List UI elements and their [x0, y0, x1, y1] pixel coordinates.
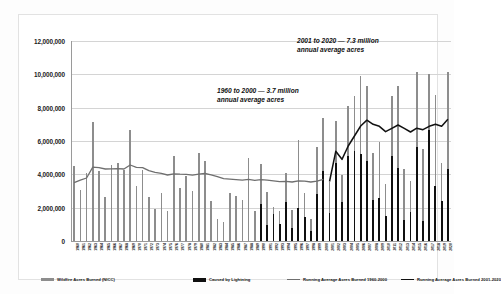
- x-axis-tick-label: 1972: [150, 243, 154, 251]
- x-axis-tick-label: 2012: [399, 243, 403, 251]
- x-axis-tick-label: 2005: [356, 243, 360, 251]
- x-axis-tick-label: 1980: [200, 243, 204, 251]
- x-axis-tick-label: 1971: [144, 243, 148, 251]
- legend-item-label: Wildfire Acres Burned (NICC): [57, 277, 115, 282]
- x-axis-tick-label: 1970: [138, 243, 142, 251]
- x-axis-tick-label: 1969: [132, 243, 136, 251]
- x-axis-tick-label: 2018: [437, 243, 441, 251]
- annotation-1960-2000: 1960 to 2000 — 3.7 million annual averag…: [217, 87, 299, 105]
- x-axis-tick-label: 2016: [424, 243, 428, 251]
- x-axis-tick-label: 1988: [250, 243, 254, 251]
- x-axis-tick-label: 2014: [412, 243, 416, 251]
- x-axis-tick-label: 1976: [175, 243, 179, 251]
- x-axis-tick-label: 2006: [362, 243, 366, 251]
- legend-item-label: Running Average Acres Burned 1960-2000: [303, 277, 387, 282]
- annotation-1960-2000-line2: annual average acres: [217, 96, 299, 105]
- legend-item[interactable]: Wildfire Acres Burned (NICC): [41, 277, 115, 282]
- x-axis-tick-label: 1964: [100, 243, 104, 251]
- y-axis-tick-label: 8,000,000: [37, 104, 65, 111]
- x-axis-tick-label: 1984: [225, 243, 229, 251]
- x-axis-tick-label: 1994: [287, 243, 291, 251]
- legend-swatch-icon: [401, 279, 414, 281]
- line-running-average-2001-2020: [330, 119, 448, 181]
- y-axis-tick-label: 10,000,000: [34, 71, 65, 78]
- y-axis-tick-label: 0: [62, 238, 65, 245]
- x-axis-tick-label: 1992: [275, 243, 279, 251]
- legend-item[interactable]: Running Average Acres Burned 2001-2020: [401, 277, 501, 282]
- x-axis-tick-label: 2020: [449, 243, 453, 251]
- x-axis-tick-label: 2010: [387, 243, 391, 251]
- x-axis-tick-label: 2015: [418, 243, 422, 251]
- x-axis-tick-label: 1999: [318, 243, 322, 251]
- x-axis-tick-label: 2009: [381, 243, 385, 251]
- x-axis-tick-label: 2004: [350, 243, 354, 251]
- x-axis-tick-label: 1990: [262, 243, 266, 251]
- x-axis-tick-label: 1978: [188, 243, 192, 251]
- y-axis-labels: 02,000,0004,000,0006,000,0008,000,00010,…: [19, 41, 67, 241]
- legend-swatch-icon: [287, 279, 300, 281]
- x-axis-tick-label: 1962: [88, 243, 92, 251]
- legend-item-label: Running Average Acres Burned 2001-2020: [417, 277, 501, 282]
- x-axis-tick-label: 1982: [213, 243, 217, 251]
- x-axis-tick-label: 1987: [244, 243, 248, 251]
- x-axis-tick-label: 2000: [325, 243, 329, 251]
- legend-item-label: Caused by Lightning: [209, 277, 250, 282]
- x-axis-tick-label: 1974: [163, 243, 167, 251]
- x-axis-tick-label: 2017: [431, 243, 435, 251]
- x-axis-tick-label: 2007: [368, 243, 372, 251]
- x-axis-tick-label: 1968: [125, 243, 129, 251]
- x-axis-tick-label: 1966: [113, 243, 117, 251]
- x-axis-tick-label: 2011: [393, 243, 397, 251]
- x-axis-tick-label: 1961: [82, 243, 86, 251]
- x-axis-tick-label: 1977: [181, 243, 185, 251]
- x-axis-tick-label: 1996: [300, 243, 304, 251]
- x-axis-tick-label: 2003: [343, 243, 347, 251]
- annotation-2001-2020-line1: 2001 to 2020 — 7.3 million: [297, 37, 379, 46]
- line-running-average-1960-2000: [74, 165, 323, 183]
- x-axis-tick-label: 2019: [443, 243, 447, 251]
- annotation-2001-2020: 2001 to 2020 — 7.3 million annual averag…: [297, 37, 379, 55]
- x-axis-tick-label: 1995: [294, 243, 298, 251]
- x-axis-tick-label: 1967: [119, 243, 123, 251]
- x-axis-tick-label: 1989: [256, 243, 260, 251]
- x-axis-tick-label: 1973: [156, 243, 160, 251]
- x-axis-labels: 1960196119621963196419651966196719681969…: [71, 243, 451, 269]
- x-axis-tick-label: 1960: [76, 243, 80, 251]
- x-axis-tick-label: 2002: [337, 243, 341, 251]
- x-axis-tick-label: 1997: [306, 243, 310, 251]
- y-axis-tick-label: 4,000,000: [37, 171, 65, 178]
- plot-inner: [71, 41, 451, 241]
- x-axis-tick-label: 1975: [169, 243, 173, 251]
- x-axis-tick-label: 1983: [219, 243, 223, 251]
- x-axis-tick-label: 1998: [312, 243, 316, 251]
- x-axis-tick-label: 1993: [281, 243, 285, 251]
- y-axis-tick-label: 6,000,000: [37, 138, 65, 145]
- legend-item[interactable]: Caused by Lightning: [193, 277, 250, 282]
- annotation-2001-2020-line2: annual average acres: [297, 46, 379, 55]
- legend-swatch-icon: [41, 278, 54, 281]
- x-axis-tick-label: 2001: [331, 243, 335, 251]
- x-axis-tick-label: 1991: [269, 243, 273, 251]
- x-axis-tick-label: 1986: [237, 243, 241, 251]
- x-axis-tick-label: 2008: [375, 243, 379, 251]
- y-axis-tick-label: 2,000,000: [37, 204, 65, 211]
- x-axis-tick-label: 1981: [206, 243, 210, 251]
- legend-item[interactable]: Running Average Acres Burned 1960-2000: [287, 277, 387, 282]
- chart-card: 02,000,0004,000,0006,000,0008,000,00010,…: [18, 14, 438, 280]
- x-axis-tick-label: 1965: [107, 243, 111, 251]
- x-axis-tick-label: 1985: [231, 243, 235, 251]
- x-axis-tick-label: 1963: [94, 243, 98, 251]
- x-axis-tick-label: 1979: [194, 243, 198, 251]
- y-axis-tick-label: 12,000,000: [34, 38, 65, 45]
- plot-area: [71, 41, 451, 241]
- annotation-1960-2000-line1: 1960 to 2000 — 3.7 million: [217, 87, 299, 96]
- x-axis-tick-label: 2013: [406, 243, 410, 251]
- chart-legend: Wildfire Acres Burned (NICC)Caused by Li…: [41, 277, 453, 289]
- running-average-lines: [71, 41, 451, 241]
- legend-swatch-icon: [193, 278, 206, 282]
